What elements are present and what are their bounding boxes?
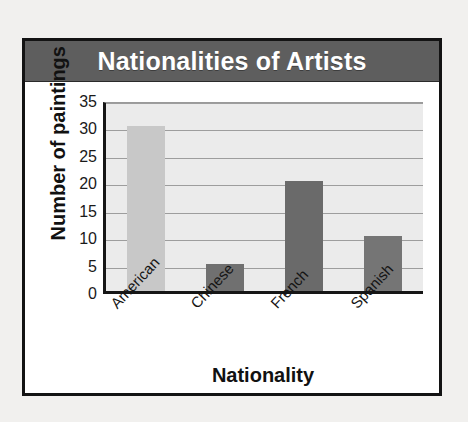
chart-title-banner: Nationalities of Artists — [25, 41, 439, 82]
x-axis-title: Nationality — [103, 364, 423, 387]
x-tick-slot: French — [263, 294, 343, 366]
chart-body: Number of paintings 35302520151050 Ameri… — [25, 82, 439, 394]
y-tick-label: 35 — [79, 94, 97, 110]
bar-slot — [265, 103, 344, 291]
y-tick-label: 15 — [79, 204, 97, 220]
x-tick-slot: American — [103, 294, 183, 366]
chart-title: Nationalities of Artists — [97, 47, 366, 76]
x-tick-slot: Chinese — [183, 294, 263, 366]
y-tick-label: 30 — [79, 121, 97, 137]
page-top-bleed: · · · · — [0, 0, 468, 16]
y-tick-label: 0 — [88, 286, 97, 302]
y-tick-label: 20 — [79, 176, 97, 192]
y-tick-label: 5 — [88, 259, 97, 275]
x-tick-slot: Spanish — [343, 294, 423, 366]
y-tick-label: 25 — [79, 149, 97, 165]
bleed-text: · · · · — [0, 0, 468, 3]
y-tick-label: 10 — [79, 231, 97, 247]
y-axis-tick-labels: 35302520151050 — [63, 102, 97, 294]
x-axis-tick-labels: AmericanChineseFrenchSpanish — [103, 294, 423, 366]
chart-figure-card: Nationalities of Artists Number of paint… — [22, 38, 442, 396]
